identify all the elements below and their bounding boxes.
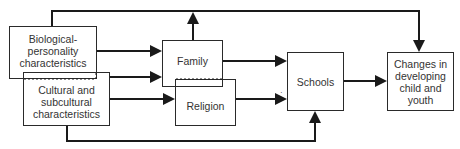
node-changes: Changes in developing child and youth	[387, 52, 454, 111]
node-changes-label: Changes in developing child and youth	[394, 58, 447, 106]
node-schools-label: Schools	[297, 76, 334, 88]
node-schools: Schools	[287, 52, 344, 111]
